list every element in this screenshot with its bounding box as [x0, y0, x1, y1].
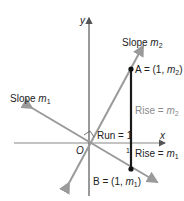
slope-m1-label: Slope m1	[10, 93, 51, 105]
slope-m2-label: Slope m2	[122, 37, 163, 49]
tick-label-1: 1	[126, 147, 130, 154]
rise-m1-label: Rise = m1	[135, 148, 179, 160]
point-b	[128, 166, 133, 171]
point-a-label: A = (1, m2)	[135, 64, 183, 76]
point-a	[128, 66, 133, 71]
point-b-label: B = (1, m1)	[93, 176, 141, 188]
origin-label: O	[76, 145, 84, 156]
y-axis-label: y	[79, 15, 86, 26]
x-axis-label: x	[159, 130, 166, 141]
line-slope-m1	[32, 108, 157, 182]
rise-m2-label: Rise = m2	[135, 105, 179, 117]
run-label: Run = 1	[97, 130, 133, 141]
slope-diagram: y x O Slope m2 Slope m1 A = (1, m2) B = …	[0, 0, 184, 201]
